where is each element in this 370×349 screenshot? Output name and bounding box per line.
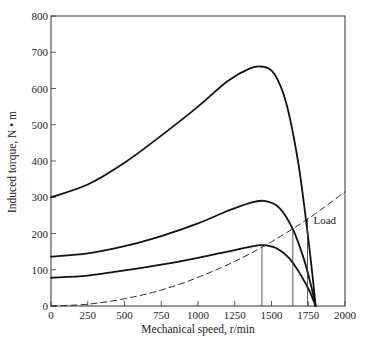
y-tick-label: 700 — [32, 46, 49, 58]
y-tick-label: 800 — [32, 10, 49, 22]
y-tick-label: 300 — [32, 191, 49, 203]
y-axis-title: Induced torque, N • m — [6, 111, 19, 213]
axis-labels: Mechanical speed, r/min Induced torque, … — [6, 111, 337, 336]
x-tick-label: 250 — [80, 309, 97, 321]
x-tick-label: 1750 — [297, 309, 320, 321]
x-tick-label: 750 — [153, 309, 170, 321]
y-tick-label: 0 — [43, 300, 49, 312]
torque-curve-1 — [51, 201, 316, 306]
plot-axes — [51, 16, 345, 306]
torque-curve-0 — [51, 66, 316, 306]
x-axis-title: Mechanical speed, r/min — [141, 323, 255, 336]
y-tick-label: 500 — [32, 119, 49, 131]
chart-series — [51, 66, 345, 306]
operating-point-lines — [262, 219, 308, 306]
y-tick-label: 200 — [32, 228, 49, 240]
y-tick-label: 100 — [32, 264, 49, 276]
load-annotation: Load — [313, 214, 336, 226]
torque-speed-chart: 0250500750100012501500175020000100200300… — [0, 0, 370, 349]
torque-curve-2 — [51, 245, 316, 306]
x-tick-label: 1000 — [187, 309, 210, 321]
x-tick-label: 0 — [48, 309, 54, 321]
x-tick-label: 1500 — [261, 309, 284, 321]
x-tick-label: 1250 — [224, 309, 247, 321]
y-tick-label: 600 — [32, 83, 49, 95]
x-tick-label: 2000 — [334, 309, 357, 321]
y-tick-label: 400 — [32, 155, 49, 167]
plot-frame — [51, 16, 345, 306]
x-tick-label: 500 — [116, 309, 133, 321]
